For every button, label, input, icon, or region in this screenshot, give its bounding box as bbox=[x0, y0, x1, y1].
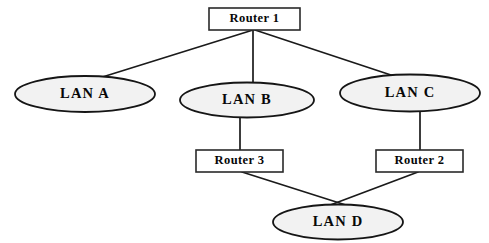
router-2-label: Router 2 bbox=[395, 153, 445, 167]
node-lan-a[interactable]: LAN A bbox=[15, 76, 155, 112]
router-1-label: Router 1 bbox=[230, 11, 280, 25]
edge-router3-lanD bbox=[242, 172, 352, 207]
network-diagram: LAN A LAN B LAN C LAN D Router 1 Router … bbox=[0, 0, 489, 243]
edge-router1-lanC bbox=[255, 30, 400, 78]
lan-b-label: LAN B bbox=[222, 91, 272, 107]
node-router-1[interactable]: Router 1 bbox=[209, 8, 300, 30]
router-3-label: Router 3 bbox=[215, 153, 265, 167]
lan-d-label: LAN D bbox=[313, 213, 364, 229]
node-lan-b[interactable]: LAN B bbox=[180, 83, 314, 118]
diagram-canvas: LAN A LAN B LAN C LAN D Router 1 Router … bbox=[0, 0, 489, 243]
edge-router2-lanD bbox=[325, 172, 418, 207]
node-lan-c[interactable]: LAN C bbox=[340, 75, 480, 112]
edge-group bbox=[96, 30, 420, 207]
lan-a-label: LAN A bbox=[60, 85, 110, 101]
node-router-3[interactable]: Router 3 bbox=[196, 150, 283, 172]
edge-router1-lanA bbox=[96, 30, 253, 79]
lan-c-label: LAN C bbox=[385, 84, 436, 100]
node-router-2[interactable]: Router 2 bbox=[376, 150, 463, 172]
node-lan-d[interactable]: LAN D bbox=[273, 205, 403, 240]
